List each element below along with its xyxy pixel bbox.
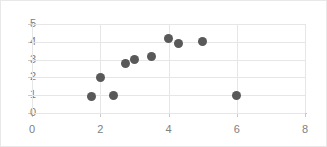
data-point xyxy=(174,39,183,48)
x-tick-label: 4 xyxy=(157,124,181,135)
data-point xyxy=(198,37,207,46)
x-tick-label: 2 xyxy=(88,124,112,135)
x-tick-mark xyxy=(305,113,306,117)
plot-area xyxy=(32,24,305,113)
data-point xyxy=(147,52,156,61)
data-point xyxy=(109,91,118,100)
gridline-vertical xyxy=(32,24,33,113)
data-point xyxy=(87,92,96,101)
x-tick-label: 0 xyxy=(20,124,44,135)
x-tick-label: 8 xyxy=(293,124,317,135)
data-point xyxy=(121,59,130,68)
data-point xyxy=(130,55,139,64)
data-point xyxy=(164,34,173,43)
gridline-horizontal xyxy=(32,113,305,114)
gridline-vertical xyxy=(305,24,306,113)
scatter-chart: 012345 02468 xyxy=(0,0,327,147)
data-point xyxy=(232,91,241,100)
x-tick-label: 6 xyxy=(225,124,249,135)
data-point xyxy=(96,73,105,82)
gridline-vertical xyxy=(100,24,101,113)
